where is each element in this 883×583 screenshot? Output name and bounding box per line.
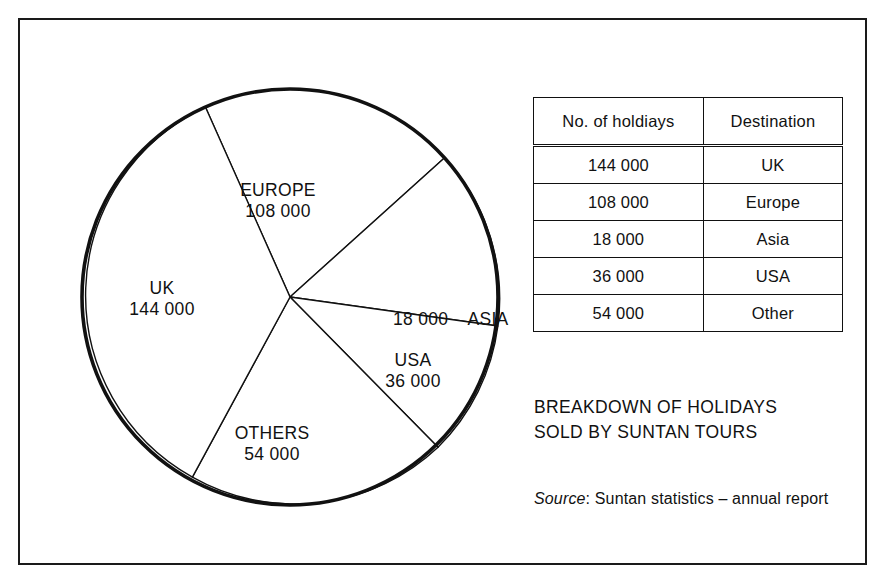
table-cell-destination: Other (703, 295, 842, 332)
pie-label-usa: USA 36 000 (385, 350, 440, 391)
table-cell-count: 108 000 (534, 184, 704, 221)
caption-line-2: SOLD BY SUNTAN TOURS (534, 420, 864, 445)
table-cell-destination: Europe (703, 184, 842, 221)
table-cell-count: 18 000 (534, 221, 704, 258)
table-header-count: No. of holdiays (534, 98, 704, 146)
table-row: 108 000 Europe (534, 184, 843, 221)
pie-label-asia-name: ASIA (468, 309, 509, 329)
pie-label-others-name: OTHERS (235, 423, 310, 444)
pie-label-uk-name: UK (129, 278, 194, 299)
pie-label-asia: 18 000 ASIA (393, 309, 509, 330)
figure-caption: BREAKDOWN OF HOLIDAYS SOLD BY SUNTAN TOU… (534, 395, 864, 445)
table-header-destination: Destination (703, 98, 842, 146)
table-cell-count: 54 000 (534, 295, 704, 332)
pie-label-europe-value: 108 000 (240, 201, 316, 222)
figure-frame: EUROPE 108 000 UK 144 000 OTHERS 54 000 … (18, 18, 867, 565)
pie-label-usa-name: USA (385, 350, 440, 371)
pie-chart-panel: EUROPE 108 000 UK 144 000 OTHERS 54 000 … (20, 20, 520, 567)
table-cell-destination: UK (703, 146, 842, 184)
table-row: 54 000 Other (534, 295, 843, 332)
table-row: 144 000 UK (534, 146, 843, 184)
table-row: 36 000 USA (534, 258, 843, 295)
right-panel: No. of holdiays Destination 144 000 UK 1… (520, 20, 869, 567)
pie-label-uk-value: 144 000 (129, 299, 194, 320)
table-row: 18 000 Asia (534, 221, 843, 258)
pie-label-others-value: 54 000 (235, 444, 310, 465)
source-text: : Suntan statistics – annual report (586, 490, 829, 507)
source-note: Source: Suntan statistics – annual repor… (534, 490, 864, 508)
table-cell-destination: Asia (703, 221, 842, 258)
pie-label-uk: UK 144 000 (129, 278, 194, 319)
pie-label-asia-value: 18 000 (393, 309, 448, 329)
table-cell-count: 144 000 (534, 146, 704, 184)
table-cell-count: 36 000 (534, 258, 704, 295)
pie-label-others: OTHERS 54 000 (235, 423, 310, 464)
source-label: Source (534, 490, 586, 507)
pie-label-europe: EUROPE 108 000 (240, 180, 316, 221)
holidays-table: No. of holdiays Destination 144 000 UK 1… (533, 97, 843, 332)
pie-label-europe-name: EUROPE (240, 180, 316, 201)
table-header-row: No. of holdiays Destination (534, 98, 843, 146)
table-cell-destination: USA (703, 258, 842, 295)
caption-line-1: BREAKDOWN OF HOLIDAYS (534, 395, 864, 420)
pie-label-usa-value: 36 000 (385, 371, 440, 392)
